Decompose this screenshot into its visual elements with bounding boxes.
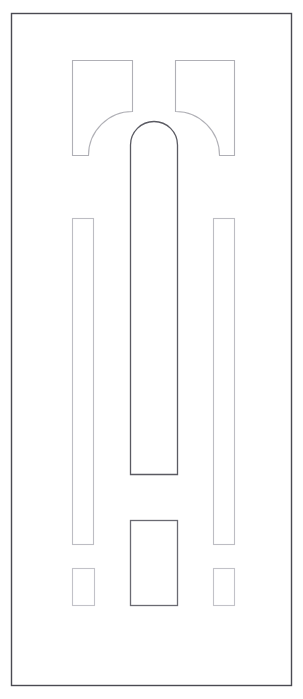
door-drawing-canvas <box>0 0 303 699</box>
door-elevation-drawing <box>0 0 303 699</box>
left-side-panel <box>73 219 94 545</box>
center-arch-panel <box>131 122 178 475</box>
right-side-panel <box>214 219 235 545</box>
bottom-center-panel <box>131 521 178 606</box>
bottom-left-square-panel <box>73 569 95 606</box>
bottom-right-square-panel <box>214 569 235 606</box>
